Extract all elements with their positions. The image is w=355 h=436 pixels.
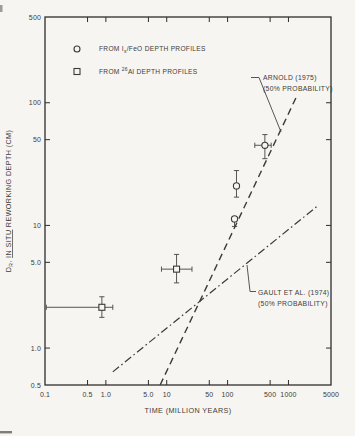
legend-square-symbol	[74, 69, 80, 75]
x-tick-label: 5.0	[143, 391, 153, 398]
y-tick-label: 0.5	[31, 382, 41, 389]
figure-container: 0.10.51.05.01050100500100050005001005010…	[0, 0, 355, 436]
scan-artifact	[0, 431, 12, 433]
y-tick-label: 10	[33, 222, 41, 229]
x-tick-label: 5000	[323, 391, 339, 398]
label-fragment: IN SITU	[4, 230, 13, 258]
annotation-text: ARNOLD (1975)	[263, 74, 317, 82]
x-tick-label: 500	[264, 391, 276, 398]
label-fragment: /FeO DEPTH PROFILES	[127, 45, 206, 52]
y-axis-title: DR, IN SITU REWORKING DEPTH (CM)	[4, 130, 14, 273]
al26-point	[99, 304, 105, 310]
annotation-text: (50% PROBABILITY)	[258, 300, 328, 308]
label-fragment: FROM	[99, 68, 122, 75]
label-fragment: FROM I	[99, 45, 124, 52]
x-tick-label: 1000	[280, 391, 296, 398]
scan-artifact	[0, 5, 3, 12]
isfeo-point	[233, 183, 239, 189]
reworking-depth-vs-time-chart: 0.10.51.05.01050100500100050005001005010…	[0, 0, 355, 436]
y-tick-label: 1.0	[31, 345, 41, 352]
y-tick-label: 50	[33, 136, 41, 143]
al26-point	[174, 266, 180, 272]
label-fragment: Al DEPTH PROFILES	[128, 68, 198, 75]
isfeo-point	[231, 216, 237, 222]
x-tick-label: 0.1	[40, 391, 50, 398]
y-tick-label: 100	[29, 99, 41, 106]
annotation-text: GAULT ET AL. (1974)	[258, 289, 329, 297]
legend-circle-symbol	[74, 46, 80, 52]
y-tick-label: 5.0	[31, 259, 41, 266]
x-tick-label: 50	[205, 391, 213, 398]
label-fragment: REWORKING DEPTH (CM)	[4, 130, 13, 230]
legend-label: FROM 26Al DEPTH PROFILES	[99, 66, 198, 75]
x-tick-label: 10	[163, 391, 171, 398]
isfeo-point	[262, 142, 268, 148]
x-tick-label: 100	[222, 391, 234, 398]
figure-background	[0, 0, 355, 436]
y-tick-label: 500	[29, 14, 41, 21]
x-tick-label: 1.0	[101, 391, 111, 398]
x-axis-title: TIME (MILLION YEARS)	[145, 406, 232, 415]
x-tick-label: 0.5	[82, 391, 92, 398]
annotation-text: (50% PROBABILITY)	[263, 85, 333, 93]
